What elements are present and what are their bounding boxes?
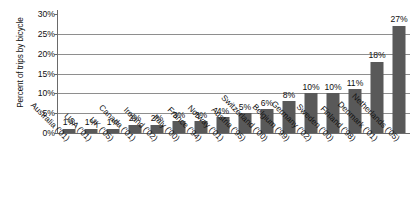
y-axis-tick-label: 10% [38,88,55,98]
bar-value-label: 18% [368,51,385,60]
x-axis-category-labels: Australia ('01)USA ('01)UK ('05)Canada (… [58,134,410,221]
bar-value-label: 27% [390,15,407,24]
y-axis-tick-label: 15% [38,69,55,79]
y-axis-tick-label: 20% [38,49,55,59]
y-axis-tick-mark [54,113,58,114]
y-axis-tick-mark [54,34,58,35]
y-axis-tick-mark [54,54,58,55]
bar-value-label: 11% [347,79,364,88]
y-axis-tick-mark [54,93,58,94]
bar-value-label: 10% [324,83,341,92]
y-axis-tick-label: 30% [38,9,55,19]
y-axis-tick-mark [54,14,58,15]
y-axis-tick-label: 25% [38,29,55,39]
bar[interactable] [393,26,406,133]
bar-slot: 1% [80,14,102,133]
bar-value-label: 10% [302,83,319,92]
bar-value-label: 8% [283,91,295,100]
y-axis-tick-mark [54,74,58,75]
bicycle-trips-bar-chart: Percent of trips by bicycle 0%5%10%15%20… [0,0,416,221]
bar-slot: 27% [388,14,410,133]
